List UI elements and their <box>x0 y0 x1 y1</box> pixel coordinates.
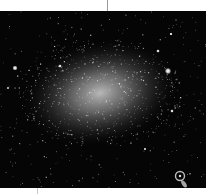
top-guide-line <box>107 0 108 11</box>
star-field <box>0 11 206 188</box>
bottom-tick-mark <box>37 188 38 194</box>
galaxy-photo <box>0 11 206 188</box>
